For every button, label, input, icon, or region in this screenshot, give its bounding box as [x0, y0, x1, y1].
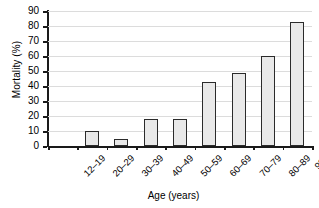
- gridline: [48, 26, 312, 27]
- bar: [114, 139, 128, 147]
- x-tick-mark: [312, 146, 314, 150]
- y-tick-mark: [43, 26, 47, 28]
- y-tick-mark: [43, 146, 47, 148]
- bar-chart: Mortality (%) Age (years) 01020304050607…: [0, 0, 319, 208]
- x-tick-mark: [136, 146, 138, 150]
- plot-area: [48, 11, 312, 146]
- y-tick-mark: [43, 101, 47, 103]
- y-tick-label: 90: [11, 6, 39, 16]
- y-tick-label: 0: [11, 141, 39, 151]
- gridline: [48, 41, 312, 42]
- x-tick-mark: [253, 146, 255, 150]
- y-tick-label: 10: [11, 126, 39, 136]
- y-tick-label: 70: [11, 36, 39, 46]
- y-tick-label: 30: [11, 96, 39, 106]
- x-axis-title: Age (years): [0, 190, 319, 201]
- bar: [290, 22, 304, 147]
- x-tick-label: 70–79: [257, 153, 283, 179]
- x-tick-label: 40–49: [169, 153, 195, 179]
- y-tick-mark: [43, 56, 47, 58]
- x-tick-mark: [48, 146, 50, 150]
- x-tick-mark: [283, 146, 285, 150]
- x-tick-mark: [77, 146, 79, 150]
- x-tick-label: 30–39: [140, 153, 166, 179]
- y-tick-mark: [43, 11, 47, 13]
- y-tick-mark: [43, 71, 47, 73]
- x-tick-mark: [107, 146, 109, 150]
- y-tick-label: 20: [11, 111, 39, 121]
- y-tick-mark: [43, 116, 47, 118]
- y-tick-label: 80: [11, 21, 39, 31]
- bar: [173, 119, 187, 146]
- y-tick-label: 40: [11, 81, 39, 91]
- y-tick-mark: [43, 86, 47, 88]
- x-tick-label: 90+: [313, 153, 319, 171]
- x-tick-mark: [195, 146, 197, 150]
- x-tick-label: 60–69: [228, 153, 254, 179]
- y-tick-label: 60: [11, 51, 39, 61]
- y-tick-mark: [43, 131, 47, 133]
- bar: [144, 119, 158, 146]
- x-tick-mark: [165, 146, 167, 150]
- bar: [261, 56, 275, 146]
- x-tick-label: 20–29: [111, 153, 137, 179]
- bar: [202, 82, 216, 147]
- y-tick-label: 50: [11, 66, 39, 76]
- gridline: [48, 11, 312, 12]
- x-tick-label: 50–59: [199, 153, 225, 179]
- gridline: [48, 146, 312, 148]
- bar: [232, 73, 246, 147]
- x-tick-label: 80–89: [287, 153, 313, 179]
- x-tick-label: 12–19: [81, 153, 107, 179]
- x-tick-mark: [224, 146, 226, 150]
- y-tick-mark: [43, 41, 47, 43]
- bar: [85, 131, 99, 146]
